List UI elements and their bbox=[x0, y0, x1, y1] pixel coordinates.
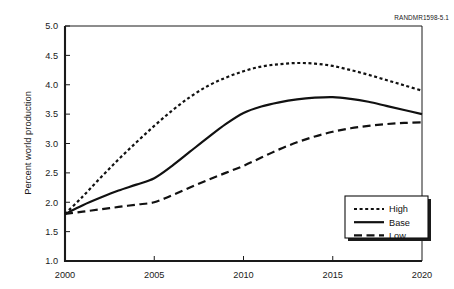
x-tick-label: 2020 bbox=[412, 270, 432, 280]
legend-label-base: Base bbox=[389, 218, 410, 228]
y-tick-label: 5.0 bbox=[45, 21, 58, 31]
y-tick-label: 2.0 bbox=[45, 198, 58, 208]
y-axis-ticks: 1.01.52.02.53.03.54.04.55.0 bbox=[45, 21, 70, 266]
x-tick-label: 2005 bbox=[144, 270, 164, 280]
legend-background bbox=[345, 196, 428, 238]
legend-label-high: High bbox=[389, 204, 408, 214]
x-tick-label: 2000 bbox=[55, 270, 75, 280]
y-axis-title: Percent world production bbox=[22, 91, 33, 195]
chart-canvas: RANDMR1598-5.1 1.01.52.02.53.03.54.04.55… bbox=[0, 0, 454, 289]
chart-legend: HighBaseLow bbox=[345, 196, 431, 241]
y-tick-label: 4.5 bbox=[45, 51, 58, 61]
y-tick-label: 3.0 bbox=[45, 139, 58, 149]
legend-label-low: Low bbox=[389, 231, 406, 241]
x-tick-label: 2010 bbox=[233, 270, 253, 280]
chart-figure: RANDMR1598-5.1 1.01.52.02.53.03.54.04.55… bbox=[0, 0, 454, 289]
figure-id-label: RANDMR1598-5.1 bbox=[394, 14, 449, 21]
y-tick-label: 1.5 bbox=[45, 227, 58, 237]
x-tick-label: 2015 bbox=[323, 270, 343, 280]
y-tick-label: 4.0 bbox=[45, 80, 58, 90]
x-axis-ticks: 20002005201020152020 bbox=[55, 256, 432, 280]
data-series-group bbox=[65, 63, 422, 214]
y-tick-label: 1.0 bbox=[45, 256, 58, 266]
y-tick-label: 3.5 bbox=[45, 109, 58, 119]
y-tick-label: 2.5 bbox=[45, 168, 58, 178]
